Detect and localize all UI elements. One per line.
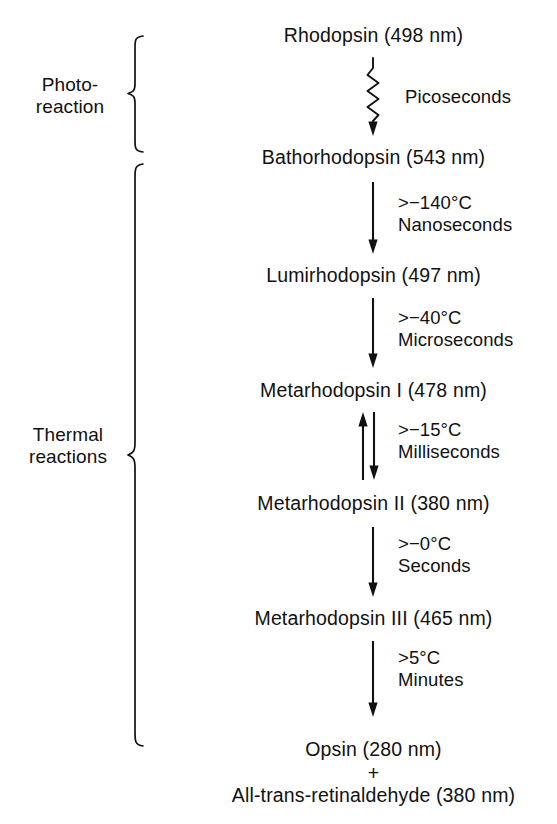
arrow-metarhodopsin-3-to-opsin	[358, 641, 388, 717]
brace-photoreaction	[126, 34, 148, 154]
arrow-wavy-rhodopsin-to-bathorhodopsin	[358, 58, 388, 136]
group-label-thermal: Thermal reactions	[10, 424, 126, 468]
arrow-metarhodopsin-2-to-metarhodopsin-3	[358, 527, 388, 597]
species-bathorhodopsin: Bathorhodopsin (543 nm)	[190, 146, 557, 169]
brace-thermal	[126, 162, 148, 748]
species-all-trans-retinaldehyde: All-trans-retinaldehyde (380 nm)	[190, 784, 557, 807]
annotation-step-batho-to-lumi: >−140°C Nanoseconds	[398, 192, 512, 236]
species-rhodopsin: Rhodopsin (498 nm)	[190, 24, 557, 47]
arrow-reversible-metarhodopsin-1-metarhodopsin-2	[352, 412, 386, 480]
arrow-lumirhodopsin-to-metarhodopsin-1	[358, 298, 388, 368]
arrow-bathorhodopsin-to-lumirhodopsin	[358, 182, 388, 254]
species-plus-sign: +	[190, 762, 557, 785]
group-label-photoreaction: Photo- reaction	[14, 74, 126, 118]
annotation-step-meta3-to-opsin: >5°C Minutes	[398, 647, 463, 691]
annotation-step-lumi-to-meta1: >−40°C Microseconds	[398, 307, 513, 351]
annotation-step-meta1-to-meta2: >−15°C Milliseconds	[398, 419, 500, 463]
annotation-step-meta2-to-meta3: >−0°C Seconds	[398, 533, 471, 577]
species-opsin: Opsin (280 nm)	[190, 738, 557, 761]
annotation-step-photoreaction: Picoseconds	[405, 86, 511, 108]
species-metarhodopsin-1: Metarhodopsin I (478 nm)	[190, 379, 557, 402]
species-metarhodopsin-3: Metarhodopsin III (465 nm)	[190, 607, 557, 630]
species-lumirhodopsin: Lumirhodopsin (497 nm)	[190, 264, 557, 287]
species-metarhodopsin-2: Metarhodopsin II (380 nm)	[190, 492, 557, 515]
rhodopsin-cascade-diagram: Photo- reaction Thermal reactions Rhodop…	[0, 0, 557, 824]
